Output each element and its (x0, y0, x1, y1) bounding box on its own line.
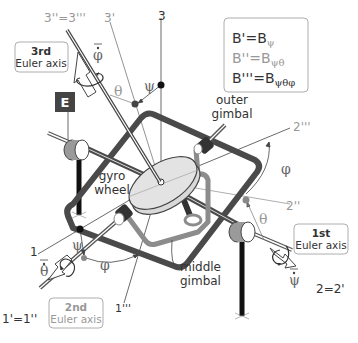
psi-label-top: ψ (144, 78, 155, 94)
theta-label-top: θ (114, 83, 122, 99)
axis-label-3p: 3' (104, 11, 115, 25)
axis-label-1: 1 (30, 245, 38, 259)
svg-text:Euler axis: Euler axis (295, 239, 346, 251)
first-euler-axis-box: 1st Euler axis (294, 224, 348, 254)
middle-gimbal-label-1: middle (180, 260, 221, 274)
third-euler-axis-box: 3rd Euler axis (15, 42, 68, 72)
svg-text:Euler axis: Euler axis (15, 57, 66, 69)
axis-3-point (158, 82, 165, 89)
svg-text:Euler axis: Euler axis (50, 313, 101, 325)
svg-text:1st: 1st (312, 227, 331, 239)
gyroscope-diagram: 3 3' 3''=3''' 1 1''' 2''' 2'' 2=2' 1'=1'… (0, 0, 358, 343)
outer-gimbal-label-2: gimbal (212, 107, 253, 121)
axis-2pp-point (243, 197, 250, 204)
svg-text:E: E (61, 95, 70, 110)
theta-dot-label: θ (40, 263, 48, 279)
legend-box: B'=Bψ B''=Bψθ B'''=Bψθφ (224, 18, 308, 92)
svg-text:3rd: 3rd (31, 45, 51, 57)
axis-1-point (77, 226, 84, 233)
theta-label-right: θ (259, 211, 267, 227)
phi-label-right: φ (281, 161, 291, 177)
axis-1p-point (81, 255, 87, 261)
axis-label-2pp: 2'' (286, 199, 300, 213)
phi-label-bottom: φ (100, 257, 110, 273)
axis-label-3pp: 3''=3''' (44, 11, 86, 25)
second-euler-axis-box: 2nd Euler axis (49, 298, 103, 328)
psi-dot-label: ψ (289, 272, 300, 288)
axis-label-3: 3 (158, 9, 166, 23)
axis-3p-point (132, 101, 139, 108)
lower-bearing (185, 215, 201, 225)
psi-label-bottom: ψ (72, 237, 83, 253)
outer-gimbal-label-1: outer (216, 93, 248, 107)
gyro-wheel-label-1: gyro (99, 169, 126, 183)
axis-label-1ppp: 1''' (115, 302, 131, 315)
axis-label-2ppp: 2''' (293, 120, 311, 134)
gyro-wheel-label-2: wheel (94, 183, 130, 197)
frame-e-badge: E (55, 92, 75, 112)
phi-dot-label: φ (93, 47, 103, 63)
theta-dot-arrow (48, 255, 74, 280)
svg-text:2nd: 2nd (65, 301, 87, 313)
axis-label-1p: 1'=1'' (2, 312, 37, 326)
middle-gimbal-label-2: gimbal (180, 274, 221, 288)
axis-label-2: 2=2' (316, 282, 345, 296)
